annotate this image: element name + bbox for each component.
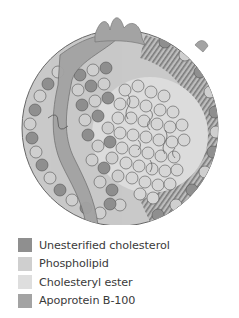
apoprotein-top-bumps: [95, 18, 145, 45]
legend-label: Unesterified cholesterol: [39, 239, 170, 252]
legend-item-cholesteryl-ester: Cholesteryl ester: [18, 273, 170, 292]
legend-label: Cholesteryl ester: [39, 276, 133, 289]
legend-label: Phospholipid: [39, 257, 109, 270]
swatch-cholesteryl-ester: [18, 275, 32, 289]
legend-item-apoprotein-b100: Apoprotein B-100: [18, 292, 170, 311]
legend: Unesterified cholesterol Phospholipid Ch…: [18, 236, 170, 310]
ldl-particle-illustration: [0, 0, 239, 225]
swatch-phospholipid: [18, 257, 32, 271]
ldl-particle-diagram: [0, 0, 239, 225]
legend-item-phospholipid: Phospholipid: [18, 255, 170, 274]
legend-item-unesterified-cholesterol: Unesterified cholesterol: [18, 236, 170, 255]
swatch-unesterified-cholesterol: [18, 238, 32, 252]
swatch-apoprotein-b100: [18, 294, 32, 308]
legend-label: Apoprotein B-100: [39, 294, 135, 307]
